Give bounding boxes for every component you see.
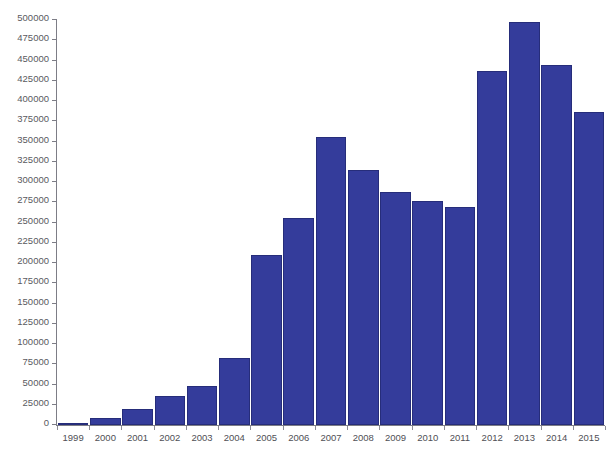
bar xyxy=(316,137,347,425)
x-tick-label: 2006 xyxy=(283,432,315,443)
bar xyxy=(122,409,153,425)
x-tick-mark xyxy=(121,426,122,430)
x-tick-mark xyxy=(476,426,477,430)
x-tick-mark xyxy=(186,426,187,430)
x-tick-label: 2003 xyxy=(186,432,218,443)
x-tick-label: 2004 xyxy=(218,432,250,443)
bar xyxy=(58,423,89,425)
x-tick-mark xyxy=(444,426,445,430)
bar xyxy=(283,218,314,425)
bar xyxy=(445,207,476,425)
y-tick-label: 300000 xyxy=(17,175,49,185)
x-tick-label: 2012 xyxy=(476,432,508,443)
x-tick-mark xyxy=(541,426,542,430)
y-tick-label: 200000 xyxy=(17,256,49,266)
bar xyxy=(412,201,443,425)
bar-chart: 0250005000075000100000125000150000175000… xyxy=(0,0,607,454)
y-tick-label: 225000 xyxy=(17,236,49,246)
x-tick-mark xyxy=(218,426,219,430)
x-tick-label: 2008 xyxy=(347,432,379,443)
y-tick-label: 150000 xyxy=(17,297,49,307)
y-tick-label: 475000 xyxy=(17,33,49,43)
bar xyxy=(380,192,411,425)
x-tick-mark xyxy=(154,426,155,430)
x-tick-label: 2013 xyxy=(508,432,540,443)
y-tick-label: 75000 xyxy=(23,357,49,367)
y-tick-label: 325000 xyxy=(17,155,49,165)
x-tick-label: 2010 xyxy=(412,432,444,443)
bar xyxy=(90,418,121,425)
x-tick-label: 2002 xyxy=(154,432,186,443)
x-tick-mark xyxy=(412,426,413,430)
bar xyxy=(155,396,186,425)
y-tick-label: 250000 xyxy=(17,216,49,226)
plot-area xyxy=(57,20,605,425)
x-tick-label: 2015 xyxy=(573,432,605,443)
y-tick-label: 175000 xyxy=(17,276,49,286)
y-tick-label: 375000 xyxy=(17,114,49,124)
bar xyxy=(574,112,605,425)
y-tick-label: 275000 xyxy=(17,195,49,205)
y-tick-label: 450000 xyxy=(17,54,49,64)
bar xyxy=(348,170,379,425)
bar xyxy=(251,255,282,425)
y-tick-label: 125000 xyxy=(17,317,49,327)
bar xyxy=(509,22,540,425)
bar xyxy=(219,358,250,425)
bar xyxy=(187,386,218,425)
x-tick-label: 2014 xyxy=(541,432,573,443)
x-tick-mark xyxy=(379,426,380,430)
x-tick-label: 2009 xyxy=(379,432,411,443)
x-tick-mark xyxy=(89,426,90,430)
y-tick-label: 500000 xyxy=(17,13,49,23)
y-tick-label: 50000 xyxy=(23,378,49,388)
x-tick-label: 2011 xyxy=(444,432,476,443)
bar xyxy=(477,71,508,425)
x-tick-mark xyxy=(347,426,348,430)
x-tick-mark xyxy=(508,426,509,430)
x-tick-label: 2000 xyxy=(89,432,121,443)
x-tick-mark xyxy=(573,426,574,430)
y-tick-label: 25000 xyxy=(23,398,49,408)
y-tick-label: 100000 xyxy=(17,337,49,347)
x-axis-line xyxy=(56,425,605,426)
x-tick-label: 2005 xyxy=(250,432,282,443)
x-tick-mark xyxy=(57,426,58,430)
y-tick-label: 350000 xyxy=(17,135,49,145)
x-tick-mark xyxy=(250,426,251,430)
x-tick-label: 2001 xyxy=(121,432,153,443)
x-tick-label: 1999 xyxy=(57,432,89,443)
x-tick-mark xyxy=(605,426,606,430)
bar xyxy=(541,65,572,425)
x-tick-mark xyxy=(315,426,316,430)
y-tick-label: 0 xyxy=(44,418,49,428)
y-tick-label: 400000 xyxy=(17,94,49,104)
x-tick-label: 2007 xyxy=(315,432,347,443)
x-tick-mark xyxy=(283,426,284,430)
y-tick-label: 425000 xyxy=(17,74,49,84)
